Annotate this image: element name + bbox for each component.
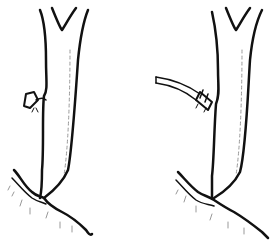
- left-panel: [8, 8, 92, 235]
- vessel-illustration: [0, 0, 275, 250]
- illustration-canvas: [0, 0, 275, 250]
- right-panel: [156, 8, 268, 238]
